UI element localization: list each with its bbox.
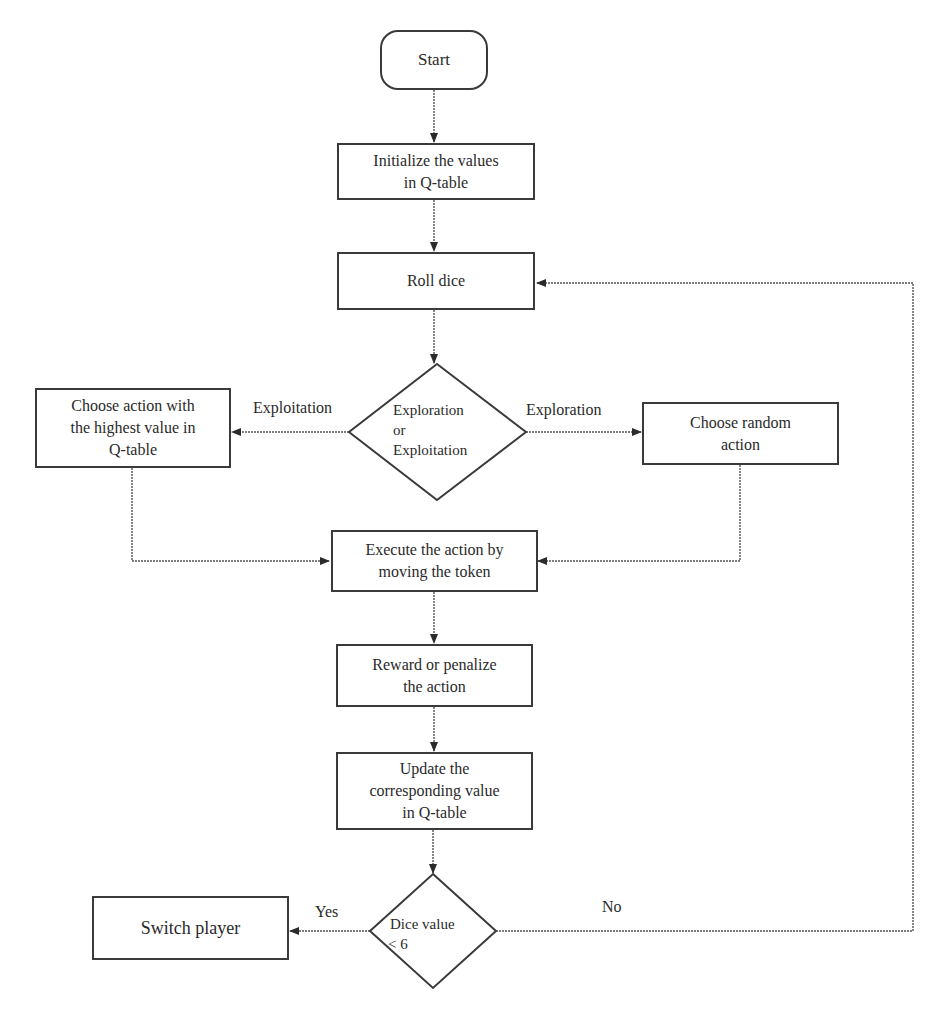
node-text-line: Exploitation xyxy=(393,440,467,460)
node-text-line: moving the token xyxy=(379,561,491,583)
flowchart-canvas: Start Initialize the values in Q-table R… xyxy=(0,0,946,1012)
start-node: Start xyxy=(380,30,488,90)
reward-or-penalize-node: Reward or penalize the action xyxy=(336,644,533,707)
initialize-q-table-node: Initialize the values in Q-table xyxy=(337,143,535,200)
node-text-line: Execute the action by xyxy=(365,539,503,561)
switch-player-node: Switch player xyxy=(92,896,289,960)
start-label: Start xyxy=(418,49,450,71)
edge-label-no: No xyxy=(602,897,622,917)
decision-dice-text: Dice value < 6 xyxy=(390,914,455,954)
node-text-line: Q-table xyxy=(109,439,157,461)
node-text-line: corresponding value xyxy=(369,780,499,802)
node-text-line: the highest value in xyxy=(71,417,196,439)
node-text-line: Reward or penalize xyxy=(372,654,496,676)
choose-highest-value-action-node: Choose action with the highest value in … xyxy=(35,388,231,468)
edge-dicecheck-roll xyxy=(496,283,913,931)
roll-dice-node: Roll dice xyxy=(337,252,535,310)
edge-random-execute xyxy=(538,465,740,561)
node-text-line: Dice value xyxy=(390,914,455,934)
choose-random-action-node: Choose random action xyxy=(642,402,839,465)
roll-dice-label: Roll dice xyxy=(407,270,465,292)
edge-label-exploration: Exploration xyxy=(526,400,602,420)
update-q-value-node: Update the corresponding value in Q-tabl… xyxy=(336,752,533,830)
execute-action-node: Execute the action by moving the token xyxy=(331,530,538,592)
node-text-line: in Q-table xyxy=(404,172,468,194)
node-text-line: Choose random xyxy=(690,412,791,434)
node-text-line: action xyxy=(721,434,760,456)
edge-label-exploitation: Exploitation xyxy=(253,398,332,418)
node-text-line: in Q-table xyxy=(402,802,466,824)
decision-explore-text: Exploration or Exploitation xyxy=(393,400,467,460)
node-text-line: Update the xyxy=(400,758,470,780)
switch-player-label: Switch player xyxy=(141,917,240,939)
node-text-line: < 6 xyxy=(388,934,455,954)
node-text-line: the action xyxy=(403,676,466,698)
edge-label-yes: Yes xyxy=(315,902,338,922)
node-text-line: or xyxy=(393,420,467,440)
node-text-line: Choose action with xyxy=(71,395,195,417)
node-text-line: Exploration xyxy=(393,400,467,420)
node-text-line: Initialize the values xyxy=(373,150,498,172)
edge-exploit-execute xyxy=(132,468,329,561)
